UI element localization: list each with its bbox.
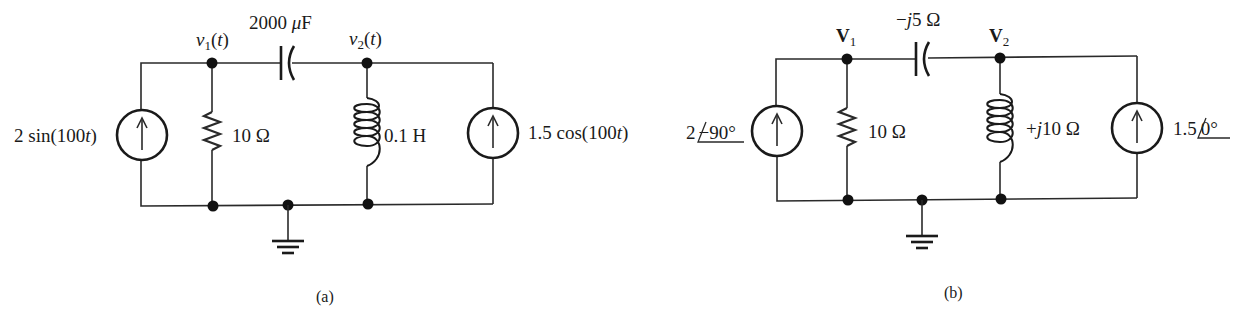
- resistor-label-b: 10 Ω: [868, 121, 906, 142]
- node-bottom-left-a: [208, 201, 219, 212]
- wire-bottom: [141, 160, 493, 206]
- inductor-label-b: +j10 Ω: [1026, 118, 1080, 139]
- ground-icon: [272, 205, 304, 253]
- caption-a: (a): [316, 288, 334, 306]
- source-right-label-a: 1.5 cos(100t): [528, 122, 628, 144]
- panel-a: v1(t) v2(t) 2000 μF 2 sin(100t) 10 Ω 0.1…: [14, 12, 628, 306]
- node-label-V1: V1: [836, 25, 856, 49]
- node-label-V2: V2: [989, 25, 1009, 49]
- circuit-diagram: v1(t) v2(t) 2000 μF 2 sin(100t) 10 Ω 0.1…: [0, 0, 1245, 328]
- current-source-left-a: [117, 110, 167, 160]
- panel-b: V1 V2 −j5 Ω 2−90° 10 Ω +j10 Ω 1.50° (b): [686, 9, 1230, 302]
- resistor-label-a: 10 Ω: [232, 125, 270, 146]
- capacitor-b: [916, 42, 929, 76]
- wire-top-right-b: [928, 56, 1137, 58]
- wire-bottom-b: [777, 156, 1137, 201]
- node-bottom-right-a: [363, 199, 374, 210]
- inductor-b: [987, 94, 1013, 162]
- source-right-label-b: 1.50°: [1173, 118, 1230, 139]
- wire-left-top-b: [776, 59, 916, 106]
- node-v2-a: [362, 58, 373, 69]
- source-left-label-b: 2−90°: [686, 122, 744, 143]
- capacitor-label-a: 2000 μF: [249, 12, 312, 33]
- svg-text:2−90°: 2−90°: [686, 122, 736, 143]
- svg-text:1.50°: 1.50°: [1173, 118, 1218, 139]
- node-V2-b: [995, 53, 1006, 64]
- node-label-v2: v2(t): [349, 28, 382, 52]
- current-source-left-b: [752, 106, 802, 156]
- inductor-label-a: 0.1 H: [384, 125, 427, 146]
- node-label-v1: v1(t): [196, 29, 229, 53]
- node-bottom-left-b: [843, 195, 854, 206]
- caption-b: (b): [944, 284, 963, 302]
- inductor-a: [354, 98, 380, 166]
- node-bottom-right-b: [996, 194, 1007, 205]
- resistor-b: [839, 108, 855, 146]
- node-v1-a: [207, 58, 218, 69]
- source-left-label-a: 2 sin(100t): [14, 125, 97, 147]
- wire-left-top: [141, 63, 281, 110]
- current-source-right-a: [468, 108, 518, 158]
- current-source-right-b: [1112, 103, 1162, 153]
- node-V1-b: [842, 54, 853, 65]
- capacitor-label-b: −j5 Ω: [896, 9, 940, 30]
- ground-icon: [906, 200, 938, 248]
- resistor-a: [204, 112, 220, 150]
